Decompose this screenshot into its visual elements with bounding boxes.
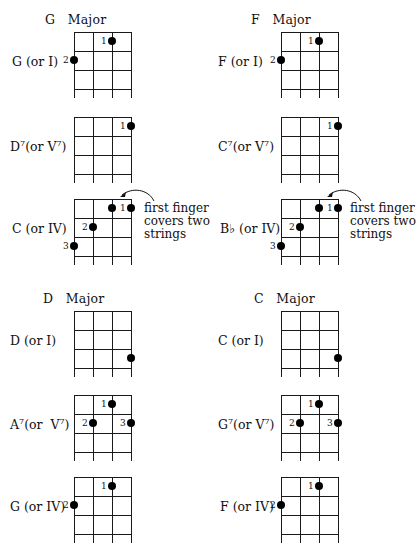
finger-dot	[89, 223, 97, 231]
finger-number: 1	[101, 37, 107, 46]
finger-dot	[277, 242, 285, 250]
chord-grid-c7: 1	[281, 117, 338, 183]
finger-dot	[108, 482, 116, 490]
finger-dot	[315, 204, 323, 212]
finger-dot	[334, 419, 342, 427]
finger-dot	[89, 419, 97, 427]
finger-number: 2	[289, 419, 295, 428]
finger-number: 2	[270, 56, 276, 65]
finger-dot	[277, 56, 285, 64]
finger-number: 1	[327, 204, 333, 213]
finger-dot	[127, 419, 135, 427]
chord-grid-d7: 1	[74, 117, 131, 183]
finger-number: 1	[120, 204, 126, 213]
finger-dot	[108, 400, 116, 408]
chord-grid-a7: 1 2 3	[74, 395, 131, 461]
chord-label-c-i: C (or I)	[218, 333, 264, 348]
finger-number: 2	[82, 223, 88, 232]
finger-number: 2	[270, 501, 276, 510]
key-title-f-major: F Major	[251, 12, 311, 27]
finger-number: 2	[289, 223, 295, 232]
finger-dot	[296, 419, 304, 427]
chord-label-bb: B♭ (or IV)	[220, 221, 280, 236]
finger-dot	[127, 122, 135, 130]
chord-grid-g-iv: 1 2	[74, 477, 131, 543]
chord-grid-bb: 1 2 3	[281, 199, 338, 265]
key-title-g-major: G Major	[45, 12, 106, 27]
finger-dot	[70, 242, 78, 250]
finger-dot	[70, 56, 78, 64]
finger-dot	[108, 204, 116, 212]
key-title-c-major: C Major	[254, 291, 315, 306]
finger-dot	[315, 482, 323, 490]
chord-label-a7: A7(or V7)	[10, 417, 69, 432]
finger-dot	[70, 501, 78, 509]
annotation-first-finger: first finger covers two strings	[350, 202, 416, 241]
finger-number: 1	[101, 482, 107, 491]
chord-label-d: D (or I)	[10, 333, 56, 348]
finger-dot	[108, 37, 116, 45]
chord-grid-g7: 1 2 3	[281, 395, 338, 461]
chord-grid-d	[74, 311, 131, 377]
finger-number: 2	[82, 419, 88, 428]
finger-number: 1	[308, 482, 314, 491]
finger-number: 3	[327, 419, 333, 428]
finger-number: 3	[63, 242, 69, 251]
finger-number: 1	[120, 122, 126, 131]
finger-dot	[127, 204, 135, 212]
finger-dot	[334, 204, 342, 212]
chord-label-d7: D7(or V7)	[10, 139, 67, 154]
finger-dot	[277, 501, 285, 509]
chord-label-c: C (or IV)	[12, 221, 67, 236]
chord-label-g7: G7(or V7)	[218, 417, 274, 432]
finger-dot	[296, 223, 304, 231]
chord-grid-f-iv: 1 2	[281, 477, 338, 543]
chord-label-f: F (or I)	[218, 54, 263, 69]
finger-dot	[315, 400, 323, 408]
chord-label-f-iv: F (or IV)	[220, 499, 274, 514]
chord-label-g-iv: G (or IV)	[10, 499, 65, 514]
finger-number: 1	[327, 122, 333, 131]
chord-grid-g: 1 2	[74, 32, 131, 98]
chord-label-c7: C7(or V7)	[218, 139, 274, 154]
finger-number: 1	[308, 400, 314, 409]
finger-number: 3	[270, 242, 276, 251]
finger-number: 3	[120, 419, 126, 428]
finger-dot	[334, 122, 342, 130]
finger-dot	[127, 354, 135, 362]
annotation-first-finger: first finger covers two strings	[144, 202, 210, 241]
finger-dot	[315, 37, 323, 45]
finger-number: 2	[63, 501, 69, 510]
chord-grid-c: 1 2 3	[74, 199, 131, 265]
chord-grid-c-i	[281, 311, 338, 377]
chord-grid-f: 1 2	[281, 32, 338, 98]
chord-label-g: G (or I)	[12, 54, 58, 69]
finger-dot	[334, 354, 342, 362]
finger-number: 1	[308, 37, 314, 46]
finger-number: 1	[101, 400, 107, 409]
key-title-d-major: D Major	[43, 291, 104, 306]
finger-number: 2	[63, 56, 69, 65]
